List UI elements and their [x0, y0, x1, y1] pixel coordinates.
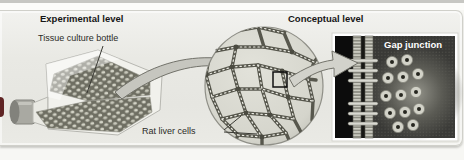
figure-illustration	[0, 0, 464, 160]
label-rat-liver-cells: Rat liver cells	[142, 126, 196, 136]
header-conceptual-level: Conceptual level	[288, 13, 364, 24]
left-edge-accent	[0, 97, 4, 117]
header-experimental-level: Experimental level	[40, 13, 123, 24]
label-tissue-culture-bottle: Tissue culture bottle	[38, 33, 118, 43]
bottle-cap	[10, 100, 36, 124]
label-gap-junction: Gap junction	[384, 39, 442, 50]
rat-liver-cells-micrograph	[203, 12, 323, 151]
tissue-culture-bottle-illustration	[10, 50, 163, 135]
